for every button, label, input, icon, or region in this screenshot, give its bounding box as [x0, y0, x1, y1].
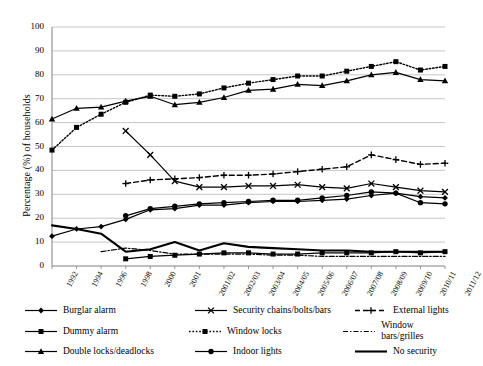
series-double-locks-deadlocks — [49, 69, 448, 121]
series-external-lights — [122, 152, 448, 187]
legend-key-icon — [188, 326, 222, 337]
legend-label: Indoor lights — [233, 346, 282, 357]
legend-item-window-bars: Window bars/grilles — [342, 320, 454, 342]
legend-item-burglar-alarm: Burglar alarm — [24, 305, 194, 316]
legend-item-no-security: No security — [354, 346, 437, 357]
legend-item-double-locks: Double locks/deadlocks — [24, 346, 194, 357]
legend-key-icon — [24, 326, 58, 337]
legend-label: Dummy alarm — [63, 326, 118, 337]
legend-key-icon — [354, 346, 388, 357]
legend-item-dummy-alarm: Dummy alarm — [24, 320, 188, 342]
y-tick-label: 10 — [22, 236, 44, 246]
legend-label: No security — [393, 346, 437, 357]
y-tick-label: 60 — [22, 117, 44, 127]
legend-row: Dummy alarm Window locks Window bars/gri… — [24, 320, 454, 342]
y-tick-label: 30 — [22, 188, 44, 198]
legend-item-security-chains: Security chains/bolts/bars — [194, 305, 354, 316]
gridlines — [52, 27, 445, 266]
y-tick-label: 50 — [22, 141, 44, 151]
y-tick-label: 0 — [22, 260, 44, 270]
legend-label: Burglar alarm — [63, 305, 116, 316]
legend-key-icon — [24, 346, 58, 357]
series-security-chains-bolts-bars — [123, 128, 448, 195]
legend-label: Window bars/grilles — [381, 320, 454, 342]
chart-legend: Burglar alarm Security chains/bolts/bars… — [24, 305, 454, 361]
legend-key-icon — [354, 305, 388, 316]
y-tick-label: 80 — [22, 69, 44, 79]
legend-item-window-locks: Window locks — [188, 320, 342, 342]
legend-key-icon — [24, 305, 58, 316]
y-tick-label: 40 — [22, 164, 44, 174]
legend-key-icon — [194, 346, 228, 357]
legend-row: Burglar alarm Security chains/bolts/bars… — [24, 305, 454, 316]
series-no-security — [52, 225, 445, 251]
legend-label: Security chains/bolts/bars — [233, 305, 331, 316]
y-tick-label: 90 — [22, 45, 44, 55]
y-tick-label: 20 — [22, 212, 44, 222]
legend-label: Double locks/deadlocks — [63, 346, 154, 357]
legend-item-external-lights: External lights — [354, 305, 449, 316]
series-burglar-alarm — [49, 190, 448, 239]
legend-row: Double locks/deadlocks Indoor lights No … — [24, 346, 454, 357]
y-tick-label: 70 — [22, 93, 44, 103]
legend-key-icon — [194, 305, 228, 316]
y-tick-label: 100 — [22, 21, 44, 31]
legend-label: External lights — [393, 305, 449, 316]
legend-item-indoor-lights: Indoor lights — [194, 346, 354, 357]
legend-label: Window locks — [227, 326, 282, 337]
legend-key-icon — [342, 326, 376, 337]
